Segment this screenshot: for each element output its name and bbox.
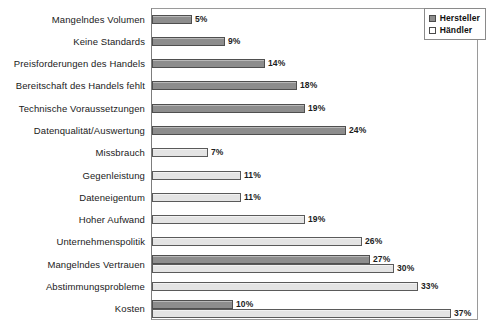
category-label: Gegenleistung <box>0 170 145 181</box>
chart-legend: Hersteller Händler <box>424 8 486 40</box>
category-label: Keine Standards <box>0 36 145 47</box>
bar-haendler[interactable] <box>152 193 241 202</box>
bar-haendler[interactable] <box>152 264 394 273</box>
bar-haendler[interactable] <box>152 309 451 318</box>
chart-category-row: Mangelndes Volumen5% <box>0 8 488 30</box>
category-label: Mangelndes Volumen <box>0 14 145 25</box>
bar-haendler[interactable] <box>152 237 362 246</box>
chart-category-row: Gegenleistung11% <box>0 164 488 186</box>
chart-category-row: Abstimmungsprobleme33% <box>0 275 488 297</box>
category-label: Hoher Aufwand <box>0 214 145 225</box>
bar-hersteller[interactable] <box>152 126 346 135</box>
swatch-empty-icon <box>429 27 436 34</box>
legend-label: Händler <box>440 25 472 35</box>
bar-value-label: 18% <box>300 80 317 91</box>
bar-value-label: 14% <box>268 58 285 69</box>
chart-category-row: Technische Voraussetzungen19% <box>0 97 488 119</box>
bar-value-label: 5% <box>195 14 208 25</box>
legend-label: Hersteller <box>440 13 480 23</box>
bar-value-label: 26% <box>365 236 382 247</box>
category-label: Preisforderungen des Handels <box>0 58 145 69</box>
chart-category-row: Unternehmenspolitik26% <box>0 231 488 253</box>
bar-value-label: 37% <box>454 308 471 319</box>
chart-category-row: Datenqualität/Auswertung24% <box>0 119 488 141</box>
category-label: Mangelndes Vertrauen <box>0 259 145 270</box>
bar-value-label: 11% <box>244 170 261 181</box>
category-label: Datenqualität/Auswertung <box>0 125 145 136</box>
bar-haendler[interactable] <box>152 282 418 291</box>
chart-category-row: Preisforderungen des Handels14% <box>0 53 488 75</box>
chart-category-row: Missbrauch7% <box>0 142 488 164</box>
legend-item-hersteller[interactable]: Hersteller <box>429 12 480 24</box>
chart-category-row: Dateneigentum11% <box>0 186 488 208</box>
chart-category-row: Mangelndes Vertrauen27%30% <box>0 253 488 275</box>
bar-chart: Mangelndes Volumen5%Keine Standards9%Pre… <box>0 0 488 334</box>
chart-category-row: Keine Standards9% <box>0 30 488 52</box>
category-label: Unternehmenspolitik <box>0 236 145 247</box>
category-label: Missbrauch <box>0 147 145 158</box>
bar-haendler[interactable] <box>152 215 305 224</box>
bar-hersteller[interactable] <box>152 37 225 46</box>
bar-hersteller[interactable] <box>152 104 305 113</box>
bar-hersteller[interactable] <box>152 255 370 264</box>
bar-value-label: 19% <box>308 103 325 114</box>
bar-haendler[interactable] <box>152 171 241 180</box>
chart-category-row: Kosten10%37% <box>0 298 488 320</box>
bar-value-label: 7% <box>211 147 224 158</box>
bar-value-label: 11% <box>244 192 261 203</box>
legend-item-haendler[interactable]: Händler <box>429 24 480 36</box>
bar-hersteller[interactable] <box>152 15 192 24</box>
category-label: Bereitschaft des Handels fehlt <box>0 80 145 91</box>
bar-value-label: 30% <box>397 263 414 274</box>
category-label: Abstimmungsprobleme <box>0 281 145 292</box>
bar-value-label: 33% <box>421 281 438 292</box>
bar-value-label: 24% <box>349 125 366 136</box>
bar-hersteller[interactable] <box>152 59 265 68</box>
chart-category-row: Hoher Aufwand19% <box>0 209 488 231</box>
bar-value-label: 9% <box>228 36 241 47</box>
bar-hersteller[interactable] <box>152 300 233 309</box>
bar-value-label: 19% <box>308 214 325 225</box>
category-label: Kosten <box>0 303 145 314</box>
chart-category-row: Bereitschaft des Handels fehlt18% <box>0 75 488 97</box>
category-label: Technische Voraussetzungen <box>0 103 145 114</box>
bar-hersteller[interactable] <box>152 81 297 90</box>
bar-haendler[interactable] <box>152 148 208 157</box>
swatch-filled-icon <box>429 15 436 22</box>
category-label: Dateneigentum <box>0 192 145 203</box>
